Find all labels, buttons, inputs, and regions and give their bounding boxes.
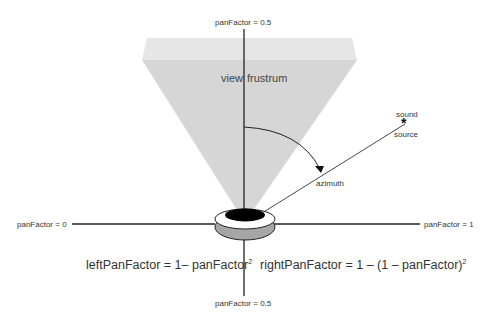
arrowhead-icon [315, 166, 324, 173]
frustum-top [142, 38, 357, 60]
frustrum-label: frustrum [247, 72, 287, 84]
label-right-panfactor: panFactor = 1 [424, 220, 474, 229]
source-label: source [394, 130, 418, 139]
sound-source-star-icon: * [401, 115, 406, 131]
label-bottom-panfactor: panFactor = 0.5 [215, 299, 271, 308]
azimuth-label: azimuth [316, 179, 344, 188]
label-left-panfactor: panFactor = 0 [17, 220, 67, 229]
label-top-panfactor: panFactor = 0.5 [215, 18, 271, 27]
view-label: view [221, 72, 243, 84]
right-pan-formula: rightPanFactor = 1 – (1 – panFactor)2 [260, 258, 466, 272]
left-pan-formula: leftPanFactor = 1– panFactor2 [86, 258, 252, 272]
sound-label: sound [396, 110, 418, 119]
listener-head-icon [225, 209, 265, 222]
diagram-canvas [0, 0, 495, 322]
